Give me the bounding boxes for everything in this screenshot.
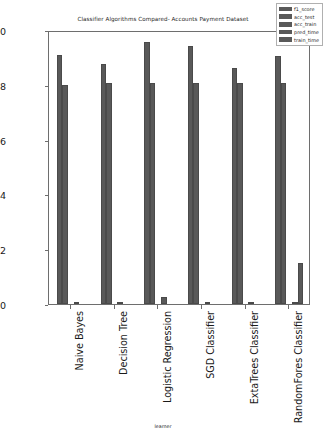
chart-figure: Classifier Algorithms Compared- Accounts… <box>0 0 326 446</box>
legend-swatch <box>279 37 292 42</box>
y-tick-label: 0.8 <box>0 80 6 91</box>
bar <box>150 83 156 304</box>
y-tick-mark <box>45 305 49 306</box>
bar <box>74 302 80 304</box>
x-tick-label: ExtaTrees Classifier <box>249 311 260 404</box>
x-tick-label: RandomFores Classifier <box>293 311 304 423</box>
legend-swatch <box>279 22 292 27</box>
x-tick-label: Decision Tree <box>118 311 129 375</box>
bar <box>106 83 112 304</box>
legend-item: pred_time <box>279 29 319 35</box>
x-tick-label: Logistic Regression <box>162 311 173 403</box>
y-tick-label: 0.2 <box>0 245 6 256</box>
legend-label: acc_test <box>294 14 314 20</box>
legend-item: acc_test <box>279 14 319 20</box>
y-tick-label: 1.0 <box>0 26 6 37</box>
legend-swatch <box>279 14 292 19</box>
legend-label: acc_train <box>294 21 316 27</box>
bar <box>205 302 211 304</box>
x-tick-label: Naive Bayes <box>74 311 85 370</box>
legend-item: train_time <box>279 36 319 42</box>
x-tick-mark <box>288 305 289 309</box>
legend-label: f1_score <box>294 6 314 12</box>
bar <box>298 263 304 304</box>
plot-area <box>48 31 310 305</box>
legend-item: f1_score <box>279 6 319 12</box>
legend-label: train_time <box>294 37 319 43</box>
bar <box>248 302 254 304</box>
legend-swatch <box>279 30 292 35</box>
x-tick-mark <box>114 305 115 309</box>
chart-legend: f1_scoreacc_testacc_trainpred_timetrain_… <box>276 3 323 46</box>
legend-label: pred_time <box>294 29 319 35</box>
x-axis-label: learner <box>0 424 326 429</box>
x-tick-label: SGD Classifier <box>205 311 216 379</box>
bar <box>237 83 243 304</box>
y-tick-label: 0.0 <box>0 300 6 311</box>
x-tick-mark <box>201 305 202 309</box>
x-tick-mark <box>70 305 71 309</box>
legend-swatch <box>279 7 292 12</box>
y-tick-label: 0.6 <box>0 135 6 146</box>
y-tick-label: 0.4 <box>0 190 6 201</box>
bar <box>281 83 287 304</box>
x-tick-mark <box>245 305 246 309</box>
bar <box>161 297 167 304</box>
bar <box>193 83 199 304</box>
x-tick-mark <box>157 305 158 309</box>
bar <box>62 85 68 304</box>
legend-item: acc_train <box>279 21 319 27</box>
bar <box>117 302 123 304</box>
